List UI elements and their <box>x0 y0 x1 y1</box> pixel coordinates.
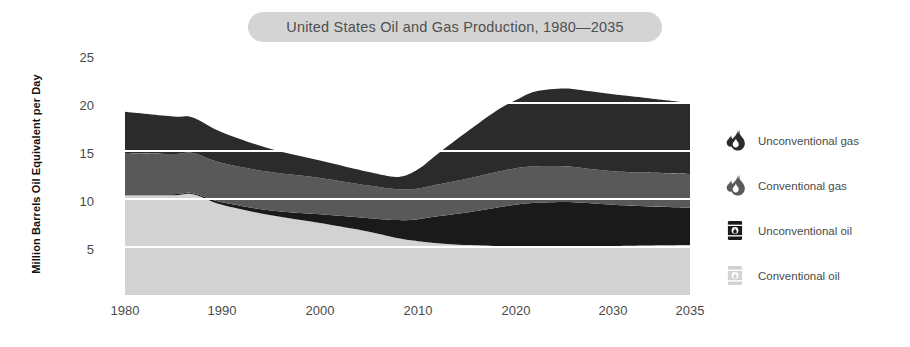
stacked-area-svg <box>100 50 712 300</box>
flame-icon <box>722 172 748 200</box>
chart-figure: United States Oil and Gas Production, 19… <box>0 0 910 347</box>
legend-label-conventional-oil: Conventional oil <box>758 270 840 282</box>
y-tick-label-20: 20 <box>56 98 94 113</box>
x-tick-label-1980: 1980 <box>90 303 160 318</box>
legend-item-unconventional-oil[interactable]: Unconventional oil <box>722 208 907 253</box>
x-tick-label-2035: 2035 <box>655 303 725 318</box>
legend-label-conventional-gas: Conventional gas <box>758 180 847 192</box>
chart-title-pill: United States Oil and Gas Production, 19… <box>248 12 662 42</box>
y-tick-label-25: 25 <box>56 50 94 65</box>
chart-title: United States Oil and Gas Production, 19… <box>286 19 623 35</box>
oil-barrel-icon <box>722 262 748 290</box>
legend-label-unconventional-gas: Unconventional gas <box>758 135 859 147</box>
area-series-group <box>125 89 690 295</box>
x-tick-label-2030: 2030 <box>578 303 648 318</box>
oil-barrel-icon <box>722 217 748 245</box>
y-axis-title: Million Barrels Oil Equivalent per Day <box>30 44 42 304</box>
y-tick-label-5: 5 <box>56 242 94 257</box>
x-tick-label-2020: 2020 <box>481 303 551 318</box>
y-tick-label-10: 10 <box>56 194 94 209</box>
y-tick-label-15: 15 <box>56 146 94 161</box>
x-tick-label-2010: 2010 <box>383 303 453 318</box>
x-tick-label-1990: 1990 <box>187 303 257 318</box>
plot-area <box>100 50 712 300</box>
legend-item-conventional-gas[interactable]: Conventional gas <box>722 163 907 208</box>
chart-legend: Unconventional gas Conventional gas <box>722 118 907 298</box>
legend-item-conventional-oil[interactable]: Conventional oil <box>722 253 907 298</box>
flame-icon <box>722 127 748 155</box>
legend-item-unconventional-gas[interactable]: Unconventional gas <box>722 118 907 163</box>
x-tick-label-2000: 2000 <box>285 303 355 318</box>
legend-label-unconventional-oil: Unconventional oil <box>758 225 852 237</box>
